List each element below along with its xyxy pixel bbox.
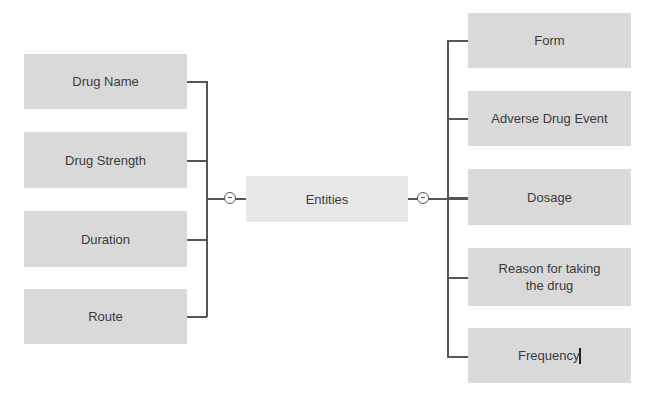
node-label-editing[interactable]: Frequency: [518, 347, 581, 365]
node-label: Drug Name: [72, 73, 138, 90]
node-label: Reason for taking the drug: [490, 260, 609, 294]
connector-drug-strength: [187, 160, 207, 162]
node-label: Dosage: [527, 189, 572, 206]
node-frequency[interactable]: Frequency: [468, 328, 631, 383]
node-label: Drug Strength: [65, 152, 146, 169]
connector-adverse-drug-event: [447, 118, 468, 120]
node-dosage[interactable]: Dosage: [468, 169, 631, 225]
node-drug-strength[interactable]: Drug Strength: [24, 132, 187, 188]
node-label: Duration: [81, 231, 130, 248]
text-cursor: [579, 348, 581, 364]
node-route[interactable]: Route: [24, 289, 187, 344]
node-label: Frequency: [518, 348, 579, 363]
collapse-left-icon[interactable]: [224, 192, 236, 204]
node-form[interactable]: Form: [468, 13, 631, 68]
connector-form: [447, 40, 468, 42]
node-adverse-drug-event[interactable]: Adverse Drug Event: [468, 91, 631, 146]
node-label: Adverse Drug Event: [491, 110, 607, 127]
node-label: Route: [88, 308, 123, 325]
node-root-entities[interactable]: Entities: [246, 176, 408, 222]
connector-frequency: [447, 356, 468, 358]
connector-reason: [447, 277, 468, 279]
connector-right-trunk: [447, 40, 449, 358]
node-duration[interactable]: Duration: [24, 211, 187, 267]
node-label: Form: [534, 32, 564, 49]
connector-route: [187, 316, 207, 318]
node-reason-for-taking-the-drug[interactable]: Reason for taking the drug: [468, 248, 631, 306]
connector-dosage: [447, 197, 468, 199]
connector-drug-name: [187, 81, 207, 83]
node-drug-name[interactable]: Drug Name: [24, 54, 187, 109]
connector-duration: [187, 239, 207, 241]
mind-map-canvas: Drug Name Drug Strength Duration Route E…: [0, 0, 654, 406]
collapse-right-icon[interactable]: [417, 192, 429, 204]
node-label: Entities: [306, 191, 349, 208]
